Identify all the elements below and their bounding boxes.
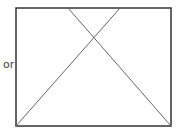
diagonal-line-2 <box>16 8 120 126</box>
outer-rectangle <box>16 8 171 126</box>
rectangle-diagram <box>0 0 178 133</box>
diagonal-line-1 <box>68 8 171 126</box>
